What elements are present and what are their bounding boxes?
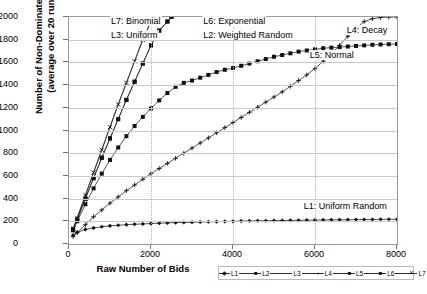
x-tick-mark (396, 245, 397, 249)
y-tick-label: 1200 (0, 103, 18, 112)
legend-item-l3[interactable]: L3 (281, 270, 312, 277)
legend-line-right (302, 273, 313, 274)
annotation-label: L3: Uniform (110, 30, 159, 40)
legend-glyph: ■ (348, 270, 352, 276)
legend-line-right (395, 273, 406, 274)
annotation-label: L7: Binomial (110, 16, 162, 26)
legend-item-l7[interactable]: ✕L7 (406, 270, 426, 277)
y-tick-label: 1400 (0, 80, 18, 89)
legend-label: L3 (293, 270, 300, 277)
legend-glyph: ✕ (409, 270, 414, 276)
x-tick-label: 2000 (120, 249, 180, 259)
legend-label: L1 (231, 270, 238, 277)
y-tick-label: 200 (0, 216, 18, 225)
legend-glyph: + (316, 270, 320, 276)
x-tick-label: 8000 (366, 249, 426, 259)
y-axis-title-line1: Number of Non-Dominated Bids (33, 0, 45, 147)
x-tick-label: 4000 (202, 249, 262, 259)
legend-item-l2[interactable]: ■L2 (250, 270, 281, 277)
y-tick-label: 1800 (0, 35, 18, 44)
legend-label: L4 (325, 270, 332, 277)
x-axis-title: Raw Number of Bids (68, 263, 218, 274)
annotation-label: L4: Decay (346, 25, 389, 35)
legend-marker-l7-icon: ✕ (406, 273, 417, 274)
gridline-vertical (151, 17, 153, 244)
legend-item-l1[interactable]: ◆L1 (219, 270, 250, 277)
y-tick-label: 1000 (0, 126, 18, 135)
legend-glyph: ◆ (222, 270, 227, 276)
x-tick-label: 0 (38, 249, 98, 259)
legend-item-l6[interactable]: ■L6 (375, 270, 406, 277)
legend-label: L6 (387, 270, 394, 277)
x-tick-mark (314, 245, 315, 249)
y-tick-label: 800 (0, 148, 18, 157)
legend-glyph: ■ (379, 270, 383, 276)
legend-marker-l3-icon (281, 273, 292, 274)
legend-marker-l6-icon: ■ (375, 273, 386, 274)
legend-line-right (333, 273, 344, 274)
legend-label: L7 (418, 270, 425, 277)
x-tick-mark (150, 245, 151, 249)
legend-marker-l1-icon: ◆ (219, 273, 230, 274)
gridline-vertical (233, 17, 235, 244)
y-tick-label: 0 (0, 239, 18, 248)
y-axis-title-line2: (average over 20 runs) (45, 0, 57, 147)
legend-line-right (270, 273, 281, 274)
legend-marker-l5-icon: ■ (344, 273, 355, 274)
y-axis-title: Number of Non-Dominated Bids (average ov… (33, 0, 57, 147)
x-tick-mark (68, 245, 69, 249)
legend-glyph: ■ (254, 270, 258, 276)
plot-area: L7: BinomialL3: UniformL6: ExponentialL2… (68, 16, 398, 245)
legend-marker-l2-icon: ■ (250, 273, 261, 274)
legend-label: L5 (356, 270, 363, 277)
legend-label: L2 (262, 270, 269, 277)
annotation-label: L1: Uniform Random (303, 201, 388, 211)
y-tick-label: 1600 (0, 57, 18, 66)
annotation-label: L2: Weighted Random (202, 30, 293, 40)
x-tick-mark (232, 245, 233, 249)
legend-line-right (364, 273, 375, 274)
y-tick-label: 600 (0, 171, 18, 180)
annotation-label: L5: Normal (309, 50, 355, 60)
legend-marker-l4-icon: + (313, 273, 324, 274)
legend-item-l4[interactable]: +L4 (313, 270, 344, 277)
legend-line-right (239, 273, 250, 274)
x-tick-label: 6000 (284, 249, 344, 259)
legend-item-l5[interactable]: ■L5 (344, 270, 375, 277)
y-tick-label: 400 (0, 194, 18, 203)
annotation-label: L6: Exponential (202, 16, 266, 26)
chart-legend[interactable]: ◆L1■L2L3+L4■L5■L6✕L7 (218, 266, 414, 280)
y-tick-label: 2000 (0, 12, 18, 21)
